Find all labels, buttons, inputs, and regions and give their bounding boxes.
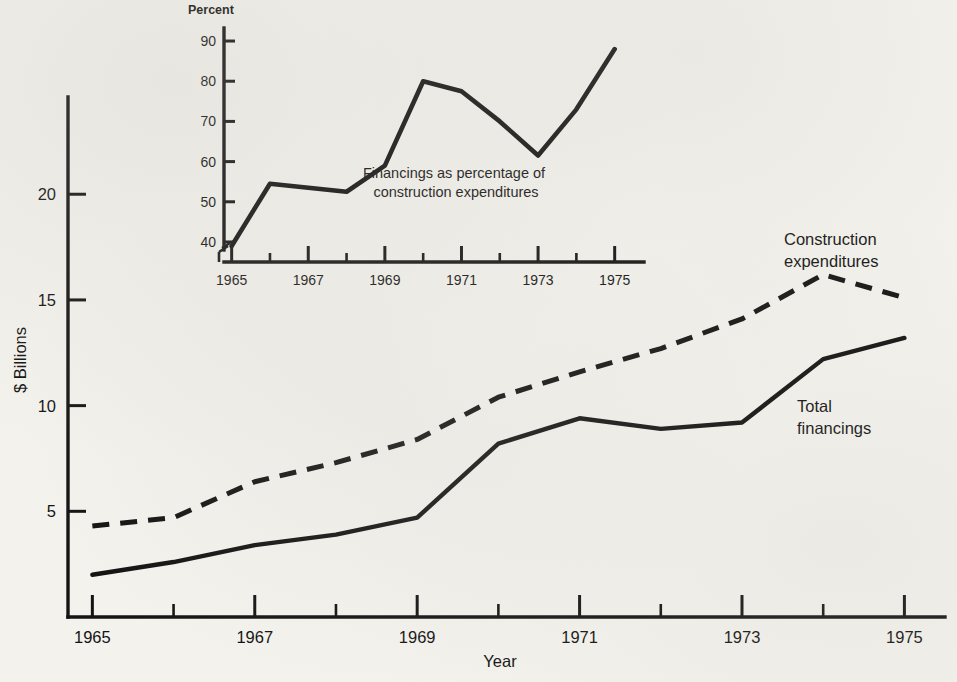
inset-x-tick-label: 1973 (522, 272, 553, 288)
x-tick-label: 1967 (236, 628, 273, 646)
inset-annotation: Financings as percentage of construction… (363, 165, 549, 200)
x-tick-label: 1969 (399, 628, 436, 646)
inset-chart: 405060708090 196519671969197119731975 Pe… (178, 0, 658, 300)
inset-x-tick-label: 1971 (446, 272, 477, 288)
inset-x-tick-labels: 196519671969197119731975 (216, 272, 630, 288)
main-y-axis-title: $ Billions (11, 327, 29, 393)
series-label-construction-expenditures: Construction expenditures (784, 230, 881, 270)
y-tick-label: 20 (38, 185, 56, 203)
main-x-axis-title: Year (483, 652, 517, 670)
x-tick-label: 1975 (886, 628, 923, 646)
inset-y-tick-label: 40 (200, 234, 216, 250)
inset-y-tick-label: 60 (200, 154, 216, 170)
series-total-financings (92, 338, 904, 575)
inset-x-tick-label: 1965 (216, 272, 247, 288)
y-tick-label: 15 (38, 291, 56, 309)
inset-y-tick-label: 50 (200, 194, 216, 210)
inset-y-tick-label: 80 (200, 73, 216, 89)
inset-y-tick-labels: 405060708090 (200, 33, 216, 250)
series-label-total-financings: Total financings (797, 397, 871, 437)
inset-x-ticks (232, 246, 615, 262)
y-tick-label: 5 (47, 502, 56, 520)
main-y-ticks (68, 194, 86, 511)
chart-page: 5101520 196519671969197119731975 Year $ … (0, 0, 957, 682)
series-construction-expenditures (92, 275, 904, 527)
inset-x-tick-label: 1969 (369, 272, 400, 288)
main-x-tick-labels: 196519671969197119731975 (74, 628, 923, 646)
inset-x-tick-label: 1967 (293, 272, 324, 288)
main-x-ticks (92, 595, 904, 617)
x-tick-label: 1971 (561, 628, 598, 646)
inset-y-tick-label: 90 (200, 33, 216, 49)
main-y-tick-labels: 5101520 (38, 185, 56, 520)
inset-x-tick-label: 1975 (599, 272, 630, 288)
inset-y-axis-title: Percent (188, 3, 235, 17)
x-tick-label: 1965 (74, 628, 111, 646)
inset-y-tick-label: 70 (200, 113, 216, 129)
x-tick-label: 1973 (724, 628, 761, 646)
series-financings-percentage (232, 49, 615, 246)
y-tick-label: 10 (38, 397, 56, 415)
